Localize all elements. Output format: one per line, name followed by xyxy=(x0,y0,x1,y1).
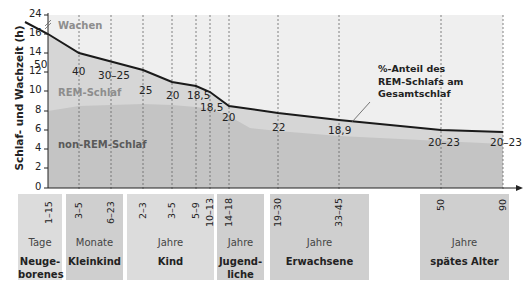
rem-pct-label: 50 xyxy=(34,58,47,70)
rem-pct-label: 18,5 xyxy=(187,89,210,101)
group-name: Erwachsene xyxy=(270,255,369,268)
age-marker: 90 xyxy=(497,199,508,211)
y-tick: 2 xyxy=(35,161,41,172)
y-tick: 10 xyxy=(29,84,42,95)
group-unit: Jahre xyxy=(270,237,369,248)
y-ticks xyxy=(44,15,48,188)
y-tick: 16 xyxy=(29,27,42,38)
rem-pct-label: 18,5 xyxy=(200,101,223,113)
age-marker: 3–5 xyxy=(166,202,177,219)
annotation-line: %-Anteil des xyxy=(378,63,464,76)
group-name: Neuge-borenes xyxy=(18,255,62,281)
region-label-rem: REM-Schlaf xyxy=(58,87,121,98)
x-axis-arrow-icon xyxy=(516,185,523,191)
age-marker: 5–9 xyxy=(190,202,201,219)
rem-pct-label: 18,9 xyxy=(328,124,351,136)
group-elderly: Jahre spätes Alter xyxy=(420,194,509,280)
group-newborn: Tage Neuge-borenes xyxy=(18,194,62,280)
annotation-line: Gesamtschlaf xyxy=(378,88,464,101)
group-adult: Jahre Erwachsene xyxy=(270,194,369,280)
age-marker: 50 xyxy=(435,199,446,211)
rem-pct-label: 20 xyxy=(166,89,179,101)
rem-pct-label: 20–23 xyxy=(490,136,522,148)
y-tick: 6 xyxy=(35,123,41,134)
region-label-nonrem: non-REM-Schlaf xyxy=(58,139,147,150)
y-tick: 4 xyxy=(35,142,41,153)
y-tick: 8 xyxy=(35,104,41,115)
rem-pct-label: 20–23 xyxy=(428,136,460,148)
group-unit: Jahre xyxy=(217,237,264,248)
group-unit: Tage xyxy=(18,237,62,248)
region-label-wake: Wachen xyxy=(58,20,102,31)
age-marker: 19–30 xyxy=(272,198,283,227)
age-marker: 2–3 xyxy=(137,202,148,219)
group-unit: Jahre xyxy=(127,237,214,248)
age-marker: 1–15 xyxy=(43,201,54,224)
group-name: Kleinkind xyxy=(66,255,123,268)
annotation-line: REM-Schlafs am xyxy=(378,76,464,89)
rem-pct-label: 30–25 xyxy=(98,69,130,81)
group-name: Kind xyxy=(127,255,214,268)
y-axis-label: Schlaf- und Wachzeit (h) xyxy=(13,23,25,173)
age-marker: 14–18 xyxy=(223,198,234,227)
rem-pct-label: 40 xyxy=(72,65,85,77)
rem-pct-label: 22 xyxy=(272,121,285,133)
age-marker: 33–45 xyxy=(333,198,344,227)
age-marker: 3–5 xyxy=(73,202,84,219)
group-name: spätes Alter xyxy=(420,255,509,268)
group-name: Jugend-liche xyxy=(217,255,264,281)
group-unit: Monate xyxy=(66,237,123,248)
y-tick: 14 xyxy=(29,46,42,57)
y-tick: 24 xyxy=(29,8,42,19)
age-marker: 6–23 xyxy=(105,201,116,224)
rem-pct-label: 25 xyxy=(139,84,152,96)
y-tick: 0 xyxy=(35,181,41,192)
group-unit: Jahre xyxy=(420,237,509,248)
rem-pct-label: 20 xyxy=(222,111,235,123)
age-marker: 10–13 xyxy=(204,198,215,227)
rem-share-annotation: %-Anteil des REM-Schlafs am Gesamtschlaf xyxy=(378,63,464,101)
